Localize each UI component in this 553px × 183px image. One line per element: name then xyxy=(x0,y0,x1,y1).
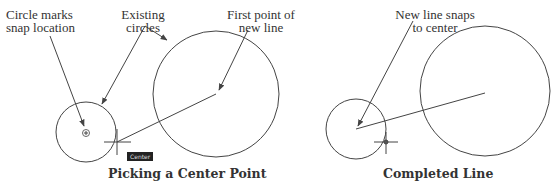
center-snap-tooltip: Center xyxy=(127,152,153,161)
arrow-snaps-center xyxy=(358,21,413,126)
label-first-point: First point of new line xyxy=(219,8,303,34)
rubberband-line xyxy=(117,94,216,142)
arrow-snap-location xyxy=(50,36,84,126)
large-circle-right xyxy=(420,26,550,156)
arrow-existing-small xyxy=(102,26,145,104)
caption-left: Picking a Center Point xyxy=(108,166,266,181)
label-snaps-center: New line snaps to center xyxy=(395,8,475,34)
label-existing-circles: Existing circles xyxy=(118,8,168,34)
caption-right: Completed Line xyxy=(383,166,493,181)
arrow-first-point xyxy=(219,30,248,90)
label-snap-marker: Circle marks snap location xyxy=(6,8,66,34)
